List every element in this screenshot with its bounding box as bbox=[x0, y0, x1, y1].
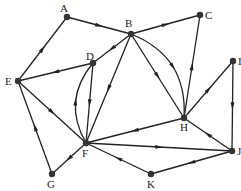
arrowhead-icon bbox=[34, 124, 39, 132]
arrowhead-icon bbox=[154, 72, 160, 80]
node-J bbox=[229, 148, 235, 154]
node-G bbox=[49, 171, 55, 177]
node-label-K: K bbox=[147, 178, 155, 190]
node-A bbox=[64, 14, 70, 20]
arrowhead-icon bbox=[115, 157, 123, 162]
node-label-C: C bbox=[205, 9, 212, 21]
node-label-J: J bbox=[237, 145, 241, 157]
node-label-B: B bbox=[125, 17, 132, 29]
node-E bbox=[15, 78, 21, 84]
node-F bbox=[83, 140, 89, 146]
node-B bbox=[128, 31, 134, 37]
node-label-G: G bbox=[47, 178, 55, 190]
node-label-H: H bbox=[180, 121, 188, 133]
arrowhead-icon bbox=[107, 84, 112, 92]
node-label-F: F bbox=[82, 147, 88, 159]
node-label-E: E bbox=[5, 75, 12, 87]
nodes bbox=[15, 12, 236, 177]
directed-graph: ABCDEFGHIJK bbox=[0, 0, 241, 191]
node-K bbox=[148, 171, 154, 177]
edges bbox=[18, 15, 234, 174]
node-label-D: D bbox=[86, 50, 94, 62]
node-label-I: I bbox=[238, 55, 241, 67]
arrowhead-icon bbox=[187, 160, 195, 164]
arrowhead-icon bbox=[95, 23, 103, 27]
arrowhead-icon bbox=[51, 69, 59, 73]
node-I bbox=[230, 58, 236, 64]
node-C bbox=[197, 12, 203, 18]
arrowhead-icon bbox=[161, 23, 169, 27]
node-label-A: A bbox=[60, 2, 68, 14]
node-labels: ABCDEFGHIJK bbox=[5, 2, 241, 190]
arrowhead-icon bbox=[131, 128, 139, 132]
arrowhead-icon bbox=[231, 102, 235, 110]
